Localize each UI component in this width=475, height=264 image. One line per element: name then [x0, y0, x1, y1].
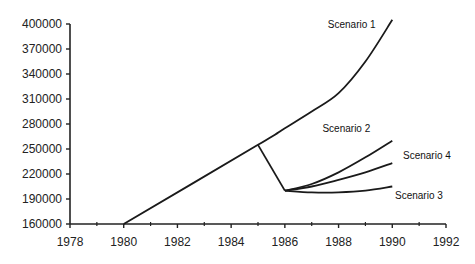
series-labels: Scenario 1Scenario 2Scenario 4Scenario 3 [322, 19, 451, 201]
x-tick-label: 1992 [433, 235, 460, 249]
y-tick-label: 190000 [22, 192, 62, 206]
y-tick-label: 280000 [22, 117, 62, 131]
x-tick-label: 1986 [272, 235, 299, 249]
x-tick-label: 1988 [325, 235, 352, 249]
series-label: Scenario 4 [403, 150, 451, 161]
series-line-historical-decline [258, 145, 285, 191]
y-tick-label: 160000 [22, 217, 62, 231]
series-line-scenario-2 [285, 141, 392, 191]
y-tick-label: 400000 [22, 17, 62, 31]
x-tick-label: 1982 [164, 235, 191, 249]
x-tick-label: 1990 [379, 235, 406, 249]
series-line-scenario-1 [124, 20, 393, 224]
y-ticks: 4000003700003400003100002800002500002200… [22, 17, 70, 231]
line-chart: 4000003700003400003100002800002500002200… [0, 0, 475, 264]
y-tick-label: 310000 [22, 92, 62, 106]
x-tick-label: 1980 [110, 235, 137, 249]
x-tick-label: 1978 [57, 235, 84, 249]
y-tick-label: 250000 [22, 142, 62, 156]
series-lines [124, 20, 393, 224]
y-tick-label: 220000 [22, 167, 62, 181]
x-ticks: 19781980198219841986198819901992 [57, 222, 460, 249]
axes [70, 24, 446, 224]
y-tick-label: 370000 [22, 42, 62, 56]
y-tick-label: 340000 [22, 67, 62, 81]
series-label: Scenario 1 [328, 19, 376, 30]
series-label: Scenario 3 [395, 190, 443, 201]
x-tick-label: 1984 [218, 235, 245, 249]
series-label: Scenario 2 [322, 123, 370, 134]
